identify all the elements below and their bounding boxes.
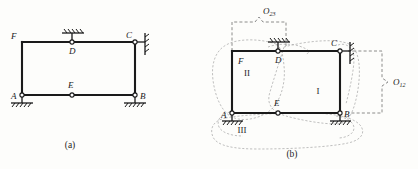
label-C: C	[331, 38, 338, 48]
disc-label-I: I	[317, 86, 320, 96]
label-D: D	[274, 55, 282, 65]
bracket-O12	[348, 51, 388, 113]
joint-A-marker	[230, 111, 234, 115]
joint-C-marker	[133, 40, 137, 44]
joint-D-marker	[70, 40, 74, 44]
instant-center-O23-label: O23	[263, 6, 276, 17]
panel-b-members	[232, 51, 340, 113]
label-D: D	[68, 46, 76, 56]
label-F: F	[10, 31, 17, 41]
joint-A-marker	[20, 93, 24, 97]
instant-center-O12-label: O12	[393, 77, 406, 88]
caption-b: (b)	[286, 149, 297, 160]
joint-C-marker	[338, 49, 342, 53]
disc-label-III: III	[238, 125, 247, 135]
joint-E-marker	[276, 111, 280, 115]
label-E: E	[273, 98, 280, 108]
joint-B-marker	[338, 111, 342, 115]
panel-a-members	[22, 42, 135, 95]
caption-a: (a)	[65, 140, 76, 151]
label-E: E	[67, 80, 74, 90]
bracket-O12-path	[348, 51, 388, 113]
instant-center-O12-subscript: 12	[400, 82, 406, 88]
disc-link-B	[336, 116, 354, 138]
joint-E	[70, 93, 74, 97]
label-A: A	[10, 91, 17, 101]
joint-B-marker	[133, 93, 137, 97]
joint-D-marker	[276, 49, 280, 53]
label-B: B	[140, 91, 146, 101]
label-C: C	[126, 30, 133, 40]
figure-canvas: A B C D E F (a)	[0, 0, 418, 169]
disc-label-II: II	[244, 68, 250, 78]
figure-root: A B C D E F (a)	[0, 0, 418, 169]
joint-E-marker	[70, 93, 74, 97]
panel-b: A B C D E F I II III O23 O12 (b)	[212, 6, 406, 160]
label-F: F	[237, 56, 244, 66]
label-A: A	[220, 110, 227, 120]
panel-a: A B C D E F (a)	[10, 29, 149, 151]
label-B: B	[344, 109, 350, 119]
instant-center-O23-subscript: 23	[270, 11, 276, 17]
